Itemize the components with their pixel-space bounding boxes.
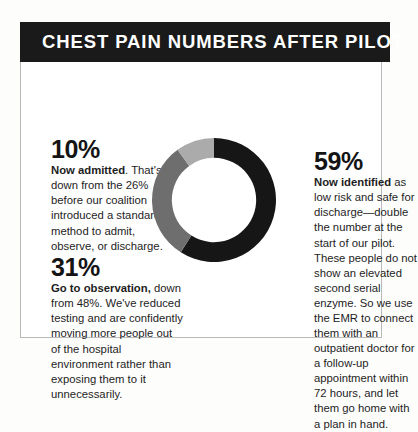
stat-lead-identified: Now identified [314, 176, 391, 188]
stat-text-identified: Now identified as low risk and safe for … [314, 175, 418, 431]
stat-block-observation: 31% Go to observation, down from 48%. We… [51, 254, 183, 402]
stat-rest-identified: as low risk and safe for discharge—doubl… [314, 176, 417, 429]
stat-text-observation: Go to observation, down from 48%. We've … [51, 281, 183, 402]
stat-lead-observation: Go to observation, [51, 282, 151, 294]
donut-slice-group [152, 138, 276, 262]
stat-block-identified: 59% Now identified as low risk and safe … [314, 148, 418, 432]
title-banner: CHEST PAIN NUMBERS AFTER PILOT [20, 22, 390, 62]
donut-chart [150, 136, 278, 264]
donut-chart-svg [150, 136, 278, 264]
stat-rest-admitted: . That's down from the 26% before our co… [51, 164, 163, 251]
stat-number-identified: 59% [314, 148, 418, 174]
donut-slice [152, 150, 191, 253]
stat-rest-observation: down from 48%. We've reduced testing and… [51, 282, 183, 400]
stat-lead-admitted: Now admitted [51, 164, 125, 176]
page-title: CHEST PAIN NUMBERS AFTER PILOT [42, 31, 404, 53]
